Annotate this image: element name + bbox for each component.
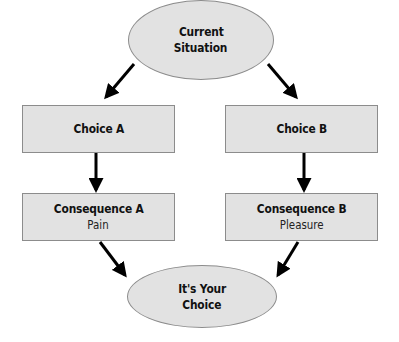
current-situation-line2: Situation bbox=[174, 40, 227, 56]
your-choice-node: It's Your Choice bbox=[127, 265, 277, 328]
arrow-situation-to-choice-a bbox=[106, 64, 134, 97]
choice-a-label: Choice A bbox=[73, 121, 124, 137]
current-situation-node: Current Situation bbox=[128, 0, 274, 80]
consequence-b-box: Consequence B Pleasure bbox=[225, 193, 378, 241]
your-choice-line1: It's Your bbox=[178, 281, 226, 297]
consequence-a-box: Consequence A Pain bbox=[22, 193, 175, 241]
choice-a-box: Choice A bbox=[22, 105, 175, 153]
your-choice-line2: Choice bbox=[183, 297, 222, 313]
arrow-consequence-b-to-choice bbox=[278, 242, 298, 275]
arrow-situation-to-choice-b bbox=[268, 64, 296, 97]
current-situation-line1: Current bbox=[179, 24, 224, 40]
choice-b-box: Choice B bbox=[225, 105, 378, 153]
consequence-b-title: Consequence B bbox=[257, 201, 347, 217]
choice-b-label: Choice B bbox=[276, 121, 326, 137]
arrow-consequence-a-to-choice bbox=[100, 242, 125, 275]
consequence-a-title: Consequence A bbox=[54, 201, 144, 217]
consequence-b-detail: Pleasure bbox=[280, 217, 324, 233]
consequence-a-detail: Pain bbox=[88, 217, 109, 233]
